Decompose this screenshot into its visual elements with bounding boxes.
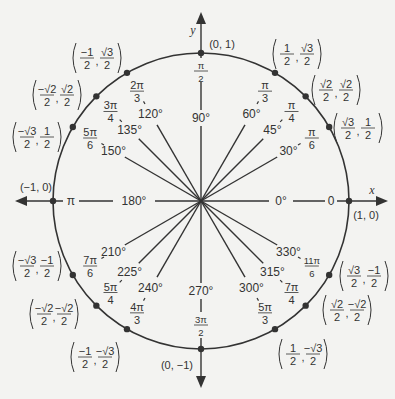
x-coordinate-denominator: 2 (82, 358, 88, 370)
radian-label-denominator: 2 (198, 327, 203, 338)
radian-label-numerator: 4π (130, 301, 144, 313)
x-coordinate-denominator: 2 (351, 277, 357, 289)
x-coordinate-numerator: 1 (290, 342, 296, 354)
coordinate-label: −√22,√22 (33, 80, 81, 110)
radian-label-numerator: π (288, 99, 296, 111)
radian-label-numerator: 11π (304, 255, 321, 266)
x-coordinate-numerator: √2 (331, 298, 343, 310)
coordinate-label: −√32,−12 (13, 251, 61, 281)
radian-label-denominator: 3 (134, 314, 140, 326)
circle-point (302, 93, 308, 99)
coordinate-label: 12,−√32 (279, 339, 327, 369)
right-paren (385, 261, 388, 291)
degree-label: 300° (239, 281, 264, 295)
y-coordinate-denominator: 2 (371, 277, 377, 289)
radian-label: 2π3 (130, 79, 144, 104)
comma: , (295, 51, 298, 63)
degree-label: 30° (279, 144, 297, 158)
radian-label-denominator: 2 (198, 73, 203, 84)
coordinate-label: √22,−√22 (323, 295, 371, 325)
radian-label-numerator: 5π (104, 281, 118, 293)
radian-label-denominator: 4 (107, 294, 113, 306)
label-dash (280, 280, 282, 282)
x-coordinate-denominator: 2 (334, 311, 340, 323)
radian-label-numerator: π (261, 79, 269, 91)
left-paren (33, 80, 36, 110)
y-coordinate-denominator: 2 (104, 59, 110, 71)
left-paren (73, 43, 76, 73)
angle-point-210: 210°7π6−√32,−12 (13, 201, 201, 281)
radian-label-denominator: 3 (134, 92, 140, 104)
coordinate-label: √32,12 (334, 113, 382, 143)
angle-point-225: 225°5π4−√22,−√22 (30, 201, 201, 329)
right-paren (118, 43, 121, 73)
x-coordinate-denominator: 2 (284, 55, 290, 67)
y-coordinate-denominator: 2 (354, 311, 360, 323)
radian-label-numerator: π (198, 60, 205, 71)
label-dash (257, 101, 259, 104)
y-coordinate-numerator: −√2 (55, 302, 74, 314)
y-coordinate: √32 (100, 46, 114, 71)
radian-label-numerator: 2π (130, 79, 144, 91)
y-coordinate-denominator: 2 (61, 315, 67, 327)
y-coordinate-numerator: 1 (44, 125, 50, 137)
circle-point (93, 93, 99, 99)
degree-label: 315° (260, 265, 285, 279)
circle-point (124, 70, 130, 76)
x-coordinate-denominator: 2 (24, 267, 30, 279)
comma: , (95, 55, 98, 67)
unit-circle-diagram: xy30°π6√32,1245°π4√22,√2260°π312,√32120°… (0, 0, 395, 399)
x-coordinate: √22 (319, 78, 333, 103)
left-paren (13, 122, 16, 152)
degree-label: 120° (138, 107, 163, 121)
y-coordinate: −12 (40, 254, 54, 279)
y-coordinate-denominator: 2 (44, 138, 50, 150)
right-paren (318, 39, 321, 69)
coordinate-label: −√32,12 (13, 122, 61, 152)
circle-point (326, 124, 332, 130)
radian-label-numerator: 5π (258, 301, 272, 313)
coordinate-label: (−1, 0) (20, 181, 52, 193)
right-paren (78, 80, 81, 110)
radian-label: 7π6 (83, 254, 97, 279)
axis-point-90: 90°π2(0, 1) (185, 38, 235, 126)
radian-label-numerator: 7π (285, 281, 299, 293)
x-coordinate: −√22 (35, 302, 54, 327)
circle-point (70, 272, 76, 278)
comma: , (35, 134, 38, 146)
y-coordinate-denominator: 2 (304, 55, 310, 67)
y-coordinate-denominator: 2 (310, 355, 316, 367)
x-coordinate-numerator: −1 (79, 345, 92, 357)
right-paren (368, 295, 371, 325)
coordinate-label: −12,√32 (73, 43, 121, 73)
y-coordinate-numerator: −√3 (304, 342, 323, 354)
radian-label: 5π4 (103, 281, 117, 306)
x-coordinate-denominator: 2 (84, 59, 90, 71)
radian-label-numerator: 3π (104, 99, 118, 111)
comma: , (356, 125, 359, 137)
radian-label: 0 (328, 194, 335, 208)
x-coordinate-numerator: −1 (81, 46, 94, 58)
y-coordinate: 12 (40, 125, 54, 150)
angle-point-135: 135°3π4−√22,√22 (33, 80, 201, 201)
label-dash (280, 120, 282, 122)
radian-label-denominator: 4 (107, 112, 113, 124)
coordinate-label: (1, 0) (353, 209, 379, 221)
radian-label: π6 (305, 126, 319, 151)
circle-point (70, 124, 76, 130)
y-coordinate: 12 (361, 116, 375, 141)
x-coordinate-numerator: −√2 (35, 302, 54, 314)
radian-label-denominator: 6 (87, 267, 93, 279)
left-paren (340, 261, 343, 291)
coordinate-label: −√22,−√22 (30, 299, 78, 329)
circle-point (198, 50, 204, 56)
x-coordinate: −12 (78, 345, 92, 370)
angle-point-45: 45°π4√22,√22 (201, 75, 360, 201)
label-dash (144, 101, 146, 104)
radian-label-denominator: 6 (309, 268, 314, 279)
y-coordinate-numerator: √3 (301, 42, 313, 54)
angle-point-30: 30°π6√32,12 (201, 113, 382, 201)
comma: , (362, 273, 365, 285)
left-paren (279, 339, 282, 369)
degree-label: 210° (101, 245, 126, 259)
